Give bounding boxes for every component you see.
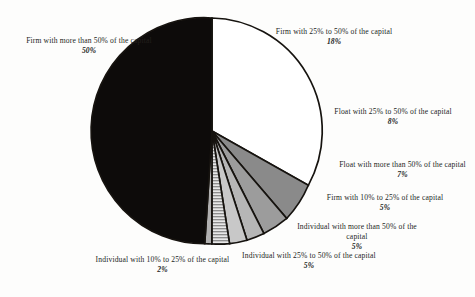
slice-label-text-line1: Firm with 10% to 25% of the [327,193,420,202]
slice-label-text-line2: capital [430,107,451,116]
pie-chart-figure: Firm with more than 50% of the capital 5… [0,0,475,297]
slice-label-individual-10-to-25: Individual with 10% to 25% of the capita… [82,255,243,275]
slice-label-text-line2: capital [422,193,443,202]
slice-label-individual-more-than-50: Individual with more than 50% of the cap… [287,222,427,252]
slice-label-percent: 8% [318,117,468,127]
slice-label-text-line2: capital [355,251,376,260]
slice-label-firm-25-to-50: Firm with 25% to 50% of the capital 18% [258,27,410,47]
slice-label-percent: 5% [312,203,458,213]
slice-label-firm-10-to-25: Firm with 10% to 25% of the capital 5% [312,193,458,213]
slice-label-percent: 2% [82,265,243,275]
slice-label-text-line1: Float with 25% to 50% of the [334,107,428,116]
slice-label-text-line1: Firm with more than 50% of the [26,36,128,45]
slice-label-text-line2: capital [371,27,392,36]
slice-label-float-more-than-50: Float with more than 50% of the capital … [330,160,475,180]
slice-label-text-line2: capital [131,36,152,45]
slice-label-text-line2: capital [208,255,229,264]
slice-label-text-line2: capital [445,160,466,169]
slice-label-percent: 7% [330,170,475,180]
slice-label-percent: 18% [258,37,410,47]
slice-label-percent: 5% [236,261,382,271]
slice-label-text-line1: Firm with 25% to 50% of the [276,27,369,36]
slice-label-firm-more-than-50: Firm with more than 50% of the capital 5… [6,36,172,56]
slice-label-percent: 50% [6,46,172,56]
slice-label-text-line1: Float with more than 50% of the [339,160,442,169]
slice-label-individual-25-to-50: Individual with 25% to 50% of the capita… [236,251,382,271]
slice-label-text-line1: Individual with more than 50% [297,222,396,231]
slice-label-text-line1: Individual with 25% to 50% of the [242,251,352,260]
slice-label-text-line1: Individual with 10% to 25% of the [96,255,206,264]
slice-label-float-25-to-50: Float with 25% to 50% of the capital 8% [318,107,468,127]
